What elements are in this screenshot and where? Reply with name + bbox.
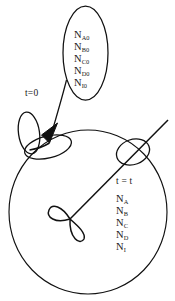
inlet-element-ellipse-outer: [16, 111, 43, 156]
figure-root: t=0 NA0 NB0 NC0 ND0 NI0 t = t NA: [0, 0, 175, 301]
system-boundary-circle: [9, 130, 167, 294]
sweep-radius-line: [70, 120, 168, 219]
initial-composition-callout: [63, 6, 108, 100]
outlet-element-ellipse: [113, 134, 154, 169]
inlet-element-ellipse: [22, 131, 74, 164]
center-bowtie-element: [48, 206, 84, 241]
diagram-canvas: [0, 0, 175, 301]
